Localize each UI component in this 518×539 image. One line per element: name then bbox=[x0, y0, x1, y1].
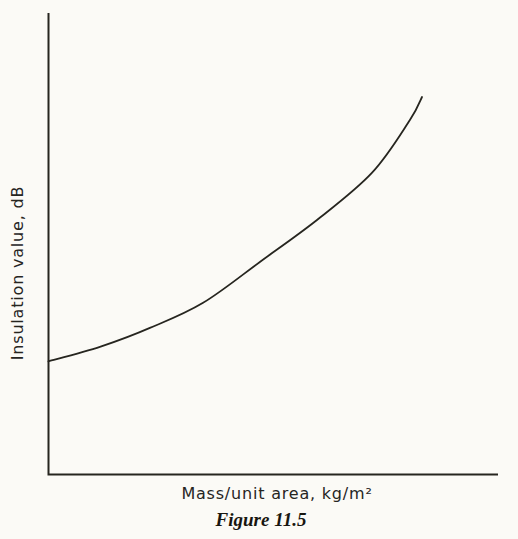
axis-lines bbox=[49, 13, 499, 475]
figure-page: Insulation value, dB Mass/unit area, kg/… bbox=[0, 0, 518, 539]
x-axis-label: Mass/unit area, kg/m² bbox=[181, 484, 372, 503]
y-axis-label: Insulation value, dB bbox=[8, 186, 27, 360]
figure-caption: Figure 11.5 bbox=[216, 509, 307, 531]
insulation-curve bbox=[49, 97, 423, 361]
chart-canvas bbox=[0, 0, 518, 539]
